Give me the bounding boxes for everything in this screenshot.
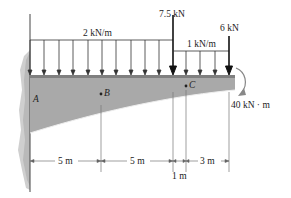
beam — [30, 75, 235, 133]
distributed-load-1kn — [173, 51, 229, 75]
label-2kn-per-m: 2 kN/m — [83, 29, 112, 39]
point-load-6kn — [226, 36, 233, 75]
dim-seg1: 5 m — [58, 157, 73, 167]
label-1kn-per-m: 1 kN/m — [187, 40, 216, 50]
moment-arrow — [236, 68, 246, 96]
label-point-c: C — [189, 81, 195, 91]
label-6kn: 6 kN — [220, 24, 239, 34]
beam-diagram — [0, 0, 291, 198]
label-point-b: B — [104, 89, 110, 99]
point-b-dot — [100, 93, 103, 96]
point-load-7-5kn — [170, 15, 177, 75]
label-40kn-m: 40 kN · m — [231, 101, 270, 111]
distributed-load-2kn — [28, 40, 173, 75]
fixed-wall — [18, 14, 30, 192]
dim-seg3: 1 m — [172, 172, 187, 182]
dim-seg4: 3 m — [200, 157, 215, 167]
label-point-a: A — [33, 95, 39, 105]
label-7-5kn: 7.5 kN — [159, 10, 185, 20]
point-c-dot — [185, 85, 188, 88]
dim-seg2: 5 m — [130, 157, 145, 167]
